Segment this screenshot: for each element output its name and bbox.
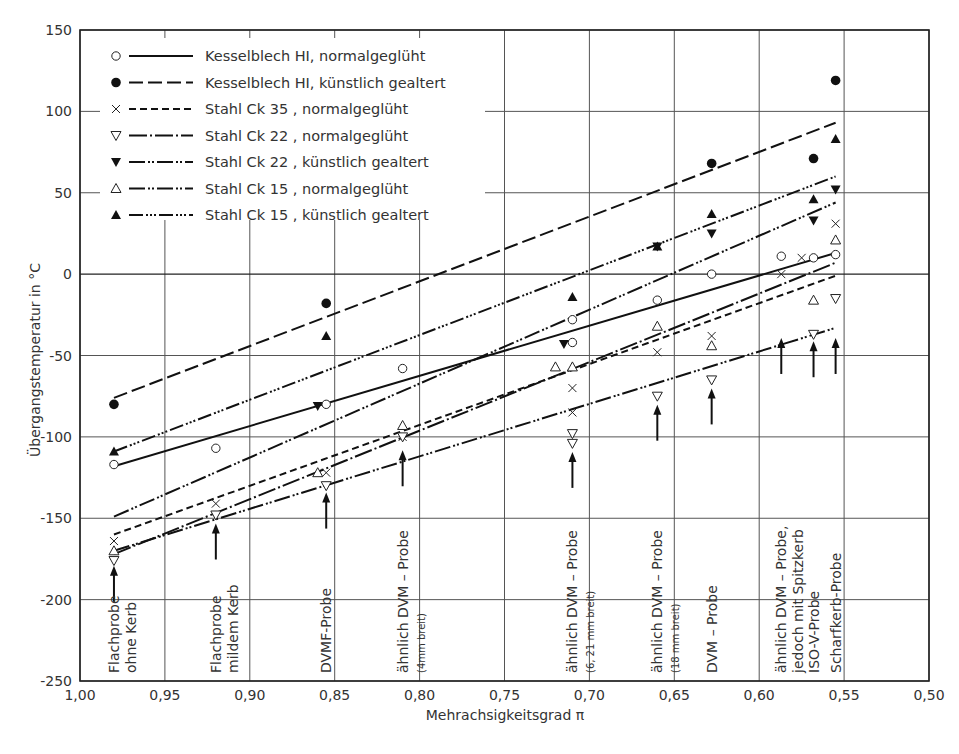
legend: Kesselblech HI, normalgeglühtKesselblech… [100,38,485,223]
arrow-head-icon [110,566,118,576]
legend-label: Stahl Ck 22 , künstlich gealtert [205,154,429,170]
y-axis-ticks: 150100500-50-100-150-200-250 [40,22,72,689]
cross-marker [212,500,220,508]
annotation-label: Flachprobeohne Kerb [106,596,139,674]
x-tick-label: 0,55 [829,687,860,703]
open-triangle-down-marker [109,557,119,566]
filled-circle-marker [707,159,717,169]
annotation-text: ISO-V-Probe [806,591,822,673]
filled-circle-marker [321,299,331,309]
arrow-head-icon [653,405,661,415]
annotation-label: DVM – Probe [704,585,720,673]
fit-line [114,203,836,517]
annotation-text: Flachprobe [106,596,122,674]
annotation-text: DVMF-Probe [318,588,334,673]
y-tick-label: -50 [49,348,72,364]
open-circle-marker [398,364,406,372]
y-axis-label: Übergangstemperatur in °C [26,263,43,457]
open-triangle-up-marker [550,362,560,371]
filled-circle-marker [109,400,119,410]
y-tick-label: -100 [40,429,72,445]
annotation-label: ähnlich DVM – Probe,jedoch mit Spitzkerb [773,526,806,674]
filled-triangle-up-marker [831,134,841,143]
annotation-text: DVM – Probe [704,585,720,673]
cross-marker [568,384,576,392]
annotation-text: jedoch mit Spitzkerb [790,529,806,674]
annotation-label: ähnlich DVM – Probe(18 mm breit) [649,530,681,673]
x-tick-label: 0,50 [913,687,944,703]
open-triangle-down-marker [707,376,717,385]
x-tick-label: 0,95 [149,687,180,703]
annotation-label: Flachprobemildem Kerb [208,584,241,673]
annotation-text: (18 mm breit) [670,603,681,673]
x-tick-label: 1,00 [64,687,95,703]
filled-triangle-down-marker [707,229,717,238]
cross-marker [832,220,840,228]
annotation-text: ähnlich DVM – Probe, [773,526,789,673]
open-triangle-up-marker [567,362,577,371]
fit-line [114,263,836,554]
legend-label: Stahl Ck 15 , künstlich gealtert [205,207,429,223]
y-tick-label: 50 [54,185,72,201]
y-tick-label: -150 [40,510,72,526]
y-tick-label: -200 [40,592,72,608]
arrow-head-icon [212,524,220,534]
open-circle-marker [707,270,715,278]
arrow-head-icon [399,450,407,460]
annotation-label: ähnlich DVM – Probe(6, 21 mm breit) [564,530,596,673]
open-triangle-up-marker [652,321,662,330]
legend-label: Kesselblech HI, künstlich gealtert [205,75,446,91]
y-tick-label: 150 [45,22,72,38]
annotation-text: ähnlich DVM – Probe [395,530,411,673]
arrow-head-icon [832,338,840,348]
y-tick-label: 100 [45,103,72,119]
annotation-label: ähnlich DVM – Probe(4mm breit) [395,530,427,673]
x-tick-label: 0,80 [404,687,435,703]
x-tick-label: 0,65 [659,687,690,703]
specimen-annotations: Flachprobeohne KerbFlachprobemildem Kerb… [106,338,844,674]
y-tick-label: 0 [63,266,72,282]
chart: Flachprobeohne KerbFlachprobemildem Kerb… [0,0,959,754]
legend-label: Stahl Ck 22 , normalgeglüht [205,128,409,144]
x-axis-label: Mehrachsigkeitsgrad π [426,707,585,723]
filled-triangle-down-marker [559,340,569,349]
x-tick-label: 0,70 [574,687,605,703]
open-circle-marker [831,250,839,258]
open-triangle-up-marker [831,235,841,244]
legend-label: Stahl Ck 15 , normalgeglüht [205,181,409,197]
cross-marker [110,537,118,545]
open-circle-marker [568,315,576,323]
x-tick-label: 0,90 [234,687,265,703]
filled-triangle-up-marker [809,194,819,203]
arrow-head-icon [810,341,818,351]
annotation-text: ähnlich DVM – Probe [564,530,580,673]
filled-circle-marker [809,154,819,164]
open-triangle-down-marker [652,392,662,401]
annotation-text: Scharfkerb-Probe [828,553,844,673]
annotation-text: Flachprobe [208,596,224,674]
legend-label: Kesselblech HI, normalgeglüht [205,48,426,64]
arrow-head-icon [568,452,576,462]
open-circle-marker [112,52,120,60]
open-circle-marker [212,444,220,452]
annotation-text: (4mm breit) [416,613,427,673]
filled-triangle-up-marker [707,209,717,218]
fit-line [114,328,836,551]
annotation-label: Scharfkerb-Probe [828,553,844,673]
open-triangle-up-marker [398,420,408,429]
annotation-label: DVMF-Probe [318,588,334,673]
open-circle-marker [777,252,785,260]
open-triangle-up-marker [809,295,819,304]
open-triangle-down-marker [321,482,331,491]
open-triangle-down-marker [831,295,841,304]
open-circle-marker [653,296,661,304]
open-triangle-up-marker [707,341,717,350]
filled-triangle-up-marker [321,331,331,340]
filled-triangle-up-marker [567,292,577,301]
x-axis-ticks: 1,000,950,900,850,800,750,700,650,600,55… [64,687,944,703]
open-triangle-down-marker [567,439,577,448]
annotation-text: ähnlich DVM – Probe [649,530,665,673]
annotation-text: (6, 21 mm breit) [585,591,596,673]
x-tick-label: 0,75 [489,687,520,703]
annotation-text: mildem Kerb [225,584,241,673]
